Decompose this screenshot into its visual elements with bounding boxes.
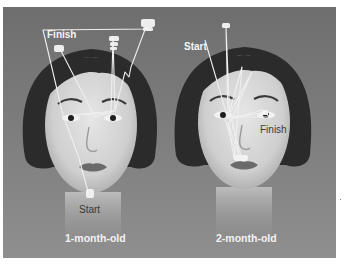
finish-label: Finish — [260, 124, 287, 135]
caption-two-month: 2-month-old — [216, 232, 277, 244]
stray-dot — [340, 199, 341, 200]
panel-two-month: Start Finish 2-month-old — [170, 7, 336, 258]
start-label: Start — [184, 41, 207, 52]
figure-photo: Finish Start 1-month-old — [3, 7, 336, 258]
face-one-month-illustration — [3, 7, 169, 258]
caption-one-month: 1-month-old — [65, 232, 126, 244]
start-label: Start — [79, 204, 100, 215]
panel-one-month: Finish Start 1-month-old — [3, 7, 169, 258]
finish-label: Finish — [47, 29, 76, 40]
